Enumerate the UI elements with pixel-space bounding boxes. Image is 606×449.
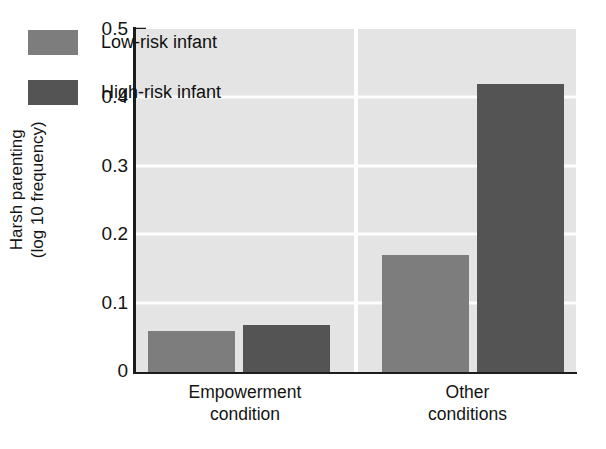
- y-axis-title-line-1: Harsh parenting: [7, 121, 28, 258]
- legend-label-high-risk: High-risk infant: [101, 82, 221, 103]
- bar-chart-figure: Harsh parenting (log 10 frequency) 0.5 0…: [0, 0, 606, 449]
- x-category-label-other-line-2: conditions: [360, 404, 575, 426]
- bar-empowerment-low-risk: [148, 331, 235, 372]
- x-category-label-other-line-1: Other: [360, 382, 575, 404]
- x-category-label-empowerment-line-1: Empowerment: [135, 382, 355, 404]
- y-tick-label-0.2: 0.2: [64, 223, 128, 245]
- legend: Low-risk infant High-risk infant: [28, 17, 278, 117]
- legend-swatch-low-risk: [28, 30, 78, 55]
- legend-item-low-risk: Low-risk infant: [28, 17, 278, 67]
- legend-label-low-risk: Low-risk infant: [101, 32, 217, 53]
- bar-other-high-risk: [477, 84, 564, 372]
- y-axis-title-line-2: (log 10 frequency): [28, 121, 49, 258]
- x-category-label-other: Other conditions: [360, 382, 575, 426]
- legend-item-high-risk: High-risk infant: [28, 67, 278, 117]
- y-tick-label-0: 0: [64, 360, 128, 382]
- x-category-label-empowerment-line-2: condition: [135, 404, 355, 426]
- bar-other-low-risk: [382, 255, 469, 372]
- x-category-label-empowerment: Empowerment condition: [135, 382, 355, 426]
- y-tick-label-0.1: 0.1: [64, 292, 128, 314]
- y-tick-label-0.3: 0.3: [64, 155, 128, 177]
- bar-empowerment-high-risk: [243, 325, 330, 372]
- legend-swatch-high-risk: [28, 80, 78, 105]
- group-separator: [354, 29, 358, 372]
